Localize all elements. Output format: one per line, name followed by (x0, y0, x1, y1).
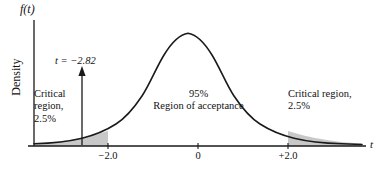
x-tick-label-pos2: +2.0 (268, 150, 308, 161)
x-tick-label-zero: 0 (178, 150, 218, 161)
f-of-t-axis-label: f(t) (20, 2, 35, 16)
test-statistic-arrow-head (78, 66, 85, 76)
t-distribution-chart (0, 0, 385, 173)
region-of-acceptance-label: 95% Region of acceptance (131, 88, 266, 113)
right-critical-region-label: Critical region, 2.5% (288, 88, 352, 113)
left-critical-region-label: Critical region, 2.5% (34, 88, 66, 125)
x-tick-label-neg2: −2.0 (88, 150, 128, 161)
y-axis-label: Density (9, 47, 23, 107)
x-axis-label: t (370, 138, 373, 151)
test-statistic-label: t = −2.82 (55, 55, 96, 67)
